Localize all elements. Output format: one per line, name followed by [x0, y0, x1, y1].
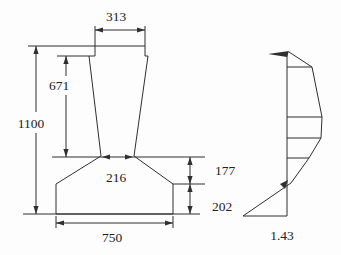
- dimension-neck-width: 216: [102, 154, 133, 185]
- arrow-right-icon: [137, 27, 145, 32]
- arrow-up-icon: [33, 46, 38, 54]
- arrow-down-icon: [187, 206, 192, 214]
- arrow-down-icon: [33, 206, 38, 214]
- footing-width-label: 750: [102, 230, 123, 245]
- pier-outline-shape: [56, 46, 173, 214]
- total-height-label: 1100: [18, 116, 45, 131]
- arrow-left-icon: [95, 27, 103, 32]
- engineering-diagram: 313 1100 671 216 177: [0, 0, 341, 255]
- arrow-down-icon: [187, 176, 192, 184]
- extension-lines: [23, 26, 205, 228]
- cap-width-label: 313: [106, 9, 127, 24]
- pier-section-outline: [56, 46, 173, 214]
- arrow-up-icon: [187, 157, 192, 165]
- arrow-left-icon: [102, 154, 110, 159]
- arrow-up-icon: [187, 184, 192, 192]
- dimension-haunch-height: 177: [187, 157, 235, 184]
- dimension-footing-height: 202: [187, 184, 232, 214]
- arrow-up-icon: [63, 56, 68, 64]
- profile-top-wedge: [268, 51, 289, 57]
- haunch-height-label: 177: [215, 163, 236, 178]
- neck-width-label: 216: [106, 170, 127, 185]
- profile-curve: [243, 52, 322, 216]
- profile-base-value-label: 1.43: [270, 228, 294, 243]
- footing-height-label: 202: [212, 199, 232, 214]
- pier-dimension-drawing: 313 1100 671 216 177: [0, 0, 341, 255]
- arrow-right-icon: [125, 154, 133, 159]
- dimension-total-height: 1100: [18, 46, 45, 214]
- arrow-right-icon: [165, 220, 173, 225]
- dimension-shaft-height: 671: [49, 56, 69, 157]
- shaft-height-label: 671: [49, 78, 69, 93]
- arrow-down-icon: [63, 149, 68, 157]
- arrow-left-icon: [56, 220, 64, 225]
- dimension-cap-width: 313: [95, 9, 145, 33]
- stress-profile-diagram: 1.43: [243, 51, 322, 243]
- dimension-footing-width: 750: [56, 220, 173, 245]
